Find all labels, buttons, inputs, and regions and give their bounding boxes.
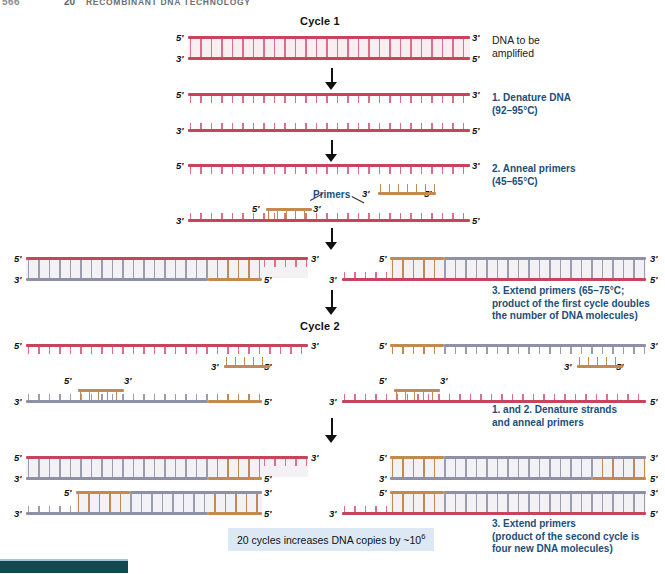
label-5prime: 5': [379, 253, 387, 264]
single-strand-teeth: [188, 213, 470, 220]
new-strand-bottom: [592, 477, 646, 480]
cycles-note-text: 20 cycles increases DNA copies by ~10: [237, 534, 421, 546]
new-strand-bottom: [208, 477, 262, 480]
label-5prime: 5': [264, 508, 272, 519]
new-strand-bottom: [208, 512, 262, 515]
overhang-teeth: [262, 459, 308, 466]
label-3prime: 3': [564, 361, 572, 372]
pcr-diagram: Cycle 1 5' 3' 3' 5' DNA to be amplified …: [0, 0, 665, 574]
template-strand-bottom: [342, 512, 646, 515]
template-strand-bottom: [342, 278, 646, 281]
overhang-teeth: [26, 506, 76, 513]
single-strand-teeth: [188, 96, 470, 103]
label-3prime: 3': [650, 452, 658, 463]
label-5prime: 5': [264, 274, 272, 285]
new-strand-bottom: [390, 477, 592, 480]
new-strand-bottom: [26, 278, 208, 281]
template-strand-bottom: [188, 57, 470, 60]
label-5prime: 5': [176, 89, 184, 100]
label-5prime: 5': [176, 160, 184, 171]
primer-teeth: [394, 392, 440, 400]
cycle-1-title: Cycle 1: [300, 15, 340, 27]
single-strand-teeth: [26, 394, 262, 401]
label-3prime: 3': [311, 452, 319, 463]
primer-teeth: [224, 357, 270, 365]
primer-teeth: [266, 211, 312, 219]
label-3prime: 3': [329, 274, 337, 285]
label-5prime: 5': [379, 375, 387, 386]
arrow-down: [325, 418, 338, 444]
label-5prime: 5': [64, 487, 72, 498]
label-3prime: 3': [176, 125, 184, 136]
label-3prime: 3': [472, 89, 480, 100]
label-3prime: 3': [311, 253, 319, 264]
label-5prime: 5': [379, 487, 387, 498]
primer: [577, 365, 623, 368]
bottom-bar: [0, 561, 128, 573]
label-3prime: 3': [311, 340, 319, 351]
new-strand-bottom: [208, 278, 262, 281]
base-pair-rungs: [26, 260, 262, 278]
new-strand: [208, 400, 262, 403]
primer-teeth: [577, 357, 623, 365]
label-5prime: 5': [14, 340, 22, 351]
label-5prime: 5': [650, 274, 658, 285]
label-3prime: 3': [176, 215, 184, 226]
arrow-down: [325, 228, 338, 250]
base-pair-rungs: [76, 494, 262, 512]
template-strand-bottom: [188, 219, 470, 222]
label-3prime: 3': [264, 487, 272, 498]
single-strand-teeth: [390, 347, 646, 354]
label-5prime: 5': [264, 473, 272, 484]
label-3prime: 3': [176, 53, 184, 64]
label-3prime: 3': [14, 508, 22, 519]
label-3prime: 3': [14, 274, 22, 285]
label-3prime: 3': [650, 487, 658, 498]
label-3prime: 3': [329, 396, 337, 407]
label-5prime: 5': [650, 473, 658, 484]
single-strand-teeth: [188, 123, 470, 130]
label-5prime: 5': [650, 508, 658, 519]
label-5prime: 5': [472, 215, 480, 226]
template-strand: [342, 400, 646, 403]
label-3prime: 3': [329, 508, 337, 519]
new-strand: [26, 400, 208, 403]
label-3prime: 3': [124, 375, 132, 386]
caption-step2-anneal: 2. Anneal primers (45–65°C): [492, 163, 576, 188]
caption-step1-denature: 1. Denature DNA (92–95°C): [492, 92, 571, 117]
base-pair-rungs: [188, 39, 470, 57]
label-3prime: 3': [379, 473, 387, 484]
primer-teeth: [78, 392, 124, 400]
label-5prime: 5': [176, 32, 184, 43]
label-5prime: 5': [14, 452, 22, 463]
label-5prime: 5': [472, 125, 480, 136]
overhang-teeth: [342, 272, 390, 279]
primer-right: [378, 192, 436, 195]
label-5prime: 5': [14, 253, 22, 264]
label-5prime: 5': [64, 375, 72, 386]
arrow-down: [325, 68, 338, 90]
label-3prime: 3': [362, 188, 370, 199]
caption-cycle2-step12: 1. and 2. Denature strands and anneal pr…: [492, 404, 617, 429]
label-3prime: 3': [472, 32, 480, 43]
arrow-down: [325, 140, 338, 162]
label-3prime: 3': [14, 396, 22, 407]
label-3prime: 3': [650, 253, 658, 264]
base-pair-rungs: [390, 459, 646, 477]
arrow-down: [325, 290, 338, 316]
base-pair-rungs: [390, 260, 646, 278]
cycle-2-title: Cycle 2: [300, 320, 340, 332]
new-strand-bottom: [26, 512, 208, 515]
caption-dna-to-be-amplified: DNA to be amplified: [492, 34, 540, 60]
cycles-note: 20 cycles increases DNA copies by ~106: [228, 528, 434, 551]
base-pair-rungs: [390, 494, 646, 512]
caption-step3-extend: 3. Extend primers (65–75°C; product of t…: [492, 285, 650, 323]
label-5prime: 5': [472, 53, 480, 64]
label-5prime: 5': [264, 396, 272, 407]
label-5prime: 5': [650, 396, 658, 407]
caption-cycle2-step3: 3. Extend primers (product of the second…: [492, 518, 639, 556]
denatured-strand-bottom: [188, 129, 470, 132]
overhang-teeth: [262, 260, 308, 267]
cycles-note-exponent: 6: [421, 532, 425, 541]
label-3prime: 3': [650, 340, 658, 351]
